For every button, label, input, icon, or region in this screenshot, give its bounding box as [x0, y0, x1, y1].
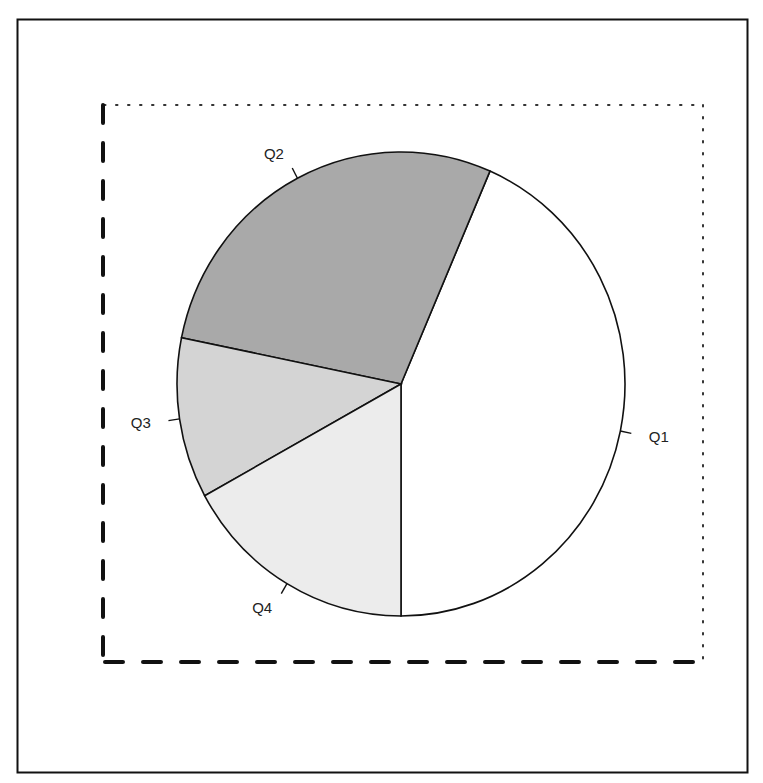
pie-chart-figure: Q1Q2Q3Q4 — [0, 0, 763, 783]
pie-label-q4: Q4 — [252, 599, 272, 616]
pie-label-q2: Q2 — [264, 145, 284, 162]
pie-label-q3: Q3 — [131, 414, 151, 431]
pie-label-q1: Q1 — [649, 428, 669, 445]
pie-slices — [177, 152, 625, 616]
